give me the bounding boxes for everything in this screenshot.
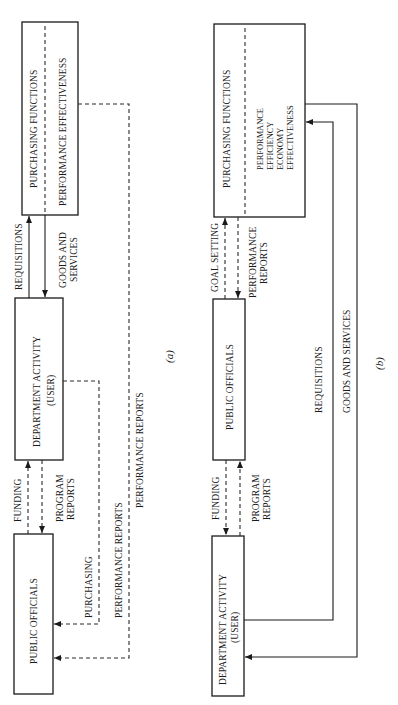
box-subtitle: (USER) (230, 612, 241, 643)
box-subtitle: PERFORMANCE EFFECTIVENESS (58, 58, 68, 206)
box-department-activity-b: DEPARTMENT ACTIVITY (USER) (212, 536, 244, 696)
label-requisitions-a: REQUISITIONS (14, 223, 24, 290)
panel-b: PURCHASING FUNCTIONS PERFORMANCE EFFICIE… (210, 24, 386, 696)
box-metric-economy: ECONOMY (276, 128, 285, 170)
box-title: PURCHASING FUNCTIONS (29, 70, 39, 188)
label-purchasing-a: PURCHASING (84, 556, 94, 618)
box-public-officials-b: PUBLIC OFFICIALS (213, 299, 245, 460)
label-goal-setting-b: GOAL SETTING (210, 223, 220, 292)
box-metric-performance: PERFORMANCE (256, 108, 265, 170)
caption-a: (a) (163, 350, 176, 363)
box-title: PUBLIC OFFICIALS (29, 578, 39, 664)
label-goods-line2-a: SERVICES (69, 237, 79, 282)
box-purchasing-functions-b: PURCHASING FUNCTIONS PERFORMANCE EFFICIE… (214, 24, 305, 217)
label-program-line1-b: PROGRAM (251, 474, 261, 522)
box-department-activity-a: DEPARTMENT ACTIVITY (USER) (15, 298, 63, 460)
label-goods-b: GOODS AND SERVICES (342, 310, 352, 413)
label-perf-line1-b: PERFORMANCE (248, 227, 258, 298)
caption-b: (b) (373, 357, 386, 370)
label-perf-reports-2-a: PERFORMANCE REPORTS (135, 392, 145, 508)
box-public-officials-a: PUBLIC OFFICIALS (14, 534, 53, 694)
label-program-line2-b: REPORTS (262, 478, 272, 520)
label-perf-line2-b: REPORTS (259, 242, 269, 284)
panel-a: PURCHASING FUNCTIONS PERFORMANCE EFFECTI… (13, 22, 176, 694)
box-title: DEPARTMENT ACTIVITY (32, 336, 42, 447)
label-funding-b: FUNDING (211, 477, 221, 520)
label-requisitions-b: REQUISITIONS (314, 346, 324, 413)
label-program-line2-a: REPORTS (66, 478, 76, 520)
box-subtitle: (USER) (46, 375, 57, 406)
label-funding-a: FUNDING (13, 479, 23, 522)
label-perf-reports-1-a: PERFORMANCE REPORTS (114, 502, 124, 618)
box-metric-efficiency: EFFICIENCY (266, 122, 275, 170)
arrow-goods-services-b (245, 104, 357, 657)
box-metric-effectiveness: EFFECTIVENESS (286, 105, 295, 170)
box-title: PURCHASING FUNCTIONS (222, 70, 232, 188)
box-purchasing-functions-a: PURCHASING FUNCTIONS PERFORMANCE EFFECTI… (22, 22, 78, 215)
label-goods-line1-a: GOODS AND (58, 232, 68, 288)
label-program-line1-a: PROGRAM (55, 474, 65, 522)
diagram-canvas: PURCHASING FUNCTIONS PERFORMANCE EFFECTI… (0, 0, 398, 705)
box-title: DEPARTMENT ACTIVITY (218, 574, 228, 685)
box-title: PUBLIC OFFICIALS (225, 344, 235, 430)
